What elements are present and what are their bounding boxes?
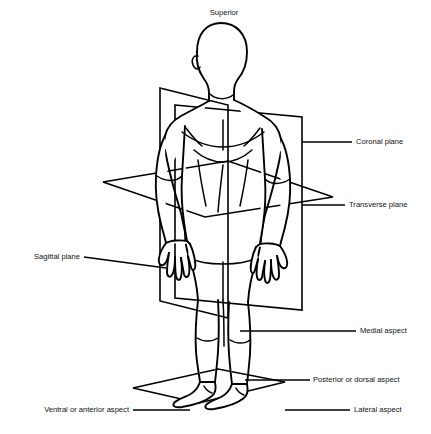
label-coronal-plane: Coronal plane bbox=[356, 137, 403, 146]
human-figure bbox=[156, 23, 291, 409]
label-ventral-aspect: Ventral or anterior aspect bbox=[44, 405, 130, 414]
label-transverse-plane: Transverse plane bbox=[349, 200, 407, 209]
anatomical-planes-figure: Superior Coronal plane Transverse plane … bbox=[0, 0, 431, 434]
label-lateral-aspect: Lateral aspect bbox=[354, 405, 403, 414]
label-sagittal-plane: Sagittal plane bbox=[34, 252, 80, 261]
label-superior: Superior bbox=[210, 8, 239, 17]
label-medial-aspect: Medial aspect bbox=[360, 326, 408, 335]
leader-sagittal bbox=[84, 257, 166, 268]
diagram-canvas: Superior Coronal plane Transverse plane … bbox=[0, 0, 431, 434]
label-posterior-aspect: Posterior or dorsal aspect bbox=[313, 375, 400, 384]
